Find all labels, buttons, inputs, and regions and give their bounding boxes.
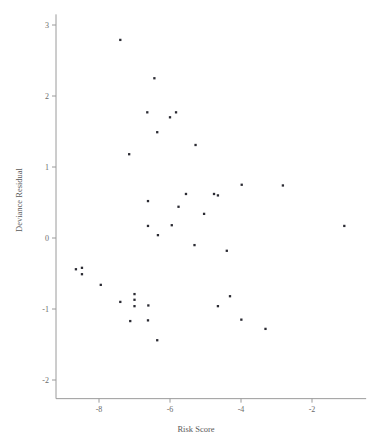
data-point <box>147 319 149 321</box>
data-point <box>217 194 219 196</box>
data-point <box>153 77 155 79</box>
data-points-layer <box>75 39 346 342</box>
data-point <box>133 293 135 295</box>
data-point <box>169 116 171 118</box>
scatter-plot-figure: -2-10123 -8-6-4-2 Deviance Residual Risk… <box>0 0 370 447</box>
data-point <box>147 225 149 227</box>
plot-canvas: -2-10123 -8-6-4-2 Deviance Residual Risk… <box>0 0 370 447</box>
y-tick-label: -1 <box>42 305 49 314</box>
data-point <box>119 39 121 41</box>
data-point <box>129 320 131 322</box>
data-point <box>229 295 231 297</box>
y-axis-title: Deviance Residual <box>14 167 24 232</box>
data-point <box>100 284 102 286</box>
data-point <box>240 319 242 321</box>
data-point <box>177 206 179 208</box>
y-tick-label: 2 <box>45 92 49 101</box>
x-tick-label: -8 <box>96 405 103 414</box>
x-axis: -8-6-4-2 <box>56 399 366 414</box>
y-tick-label: 3 <box>45 21 49 30</box>
y-axis: -2-10123 <box>42 14 56 398</box>
x-tick-label: -6 <box>167 405 174 414</box>
data-point <box>156 131 158 133</box>
data-point <box>133 299 135 301</box>
data-point <box>264 328 266 330</box>
data-point <box>75 268 77 270</box>
data-point <box>133 305 135 307</box>
data-point <box>217 305 219 307</box>
y-tick-label: 0 <box>45 234 49 243</box>
data-point <box>241 184 243 186</box>
data-point <box>194 144 196 146</box>
y-tick-label: -2 <box>42 376 49 385</box>
y-tick-label: 1 <box>45 163 49 172</box>
data-point <box>282 184 284 186</box>
data-point <box>157 234 159 236</box>
data-point <box>128 153 130 155</box>
data-point <box>171 224 173 226</box>
data-point <box>343 225 345 227</box>
data-point <box>147 200 149 202</box>
data-point <box>226 250 228 252</box>
data-point <box>146 111 148 113</box>
data-point <box>203 213 205 215</box>
data-point <box>81 273 83 275</box>
x-axis-title: Risk Score <box>177 424 214 434</box>
data-point <box>156 339 158 341</box>
data-point <box>213 193 215 195</box>
data-point <box>185 193 187 195</box>
data-point <box>175 111 177 113</box>
data-point <box>147 304 149 306</box>
x-tick-label: -2 <box>309 405 316 414</box>
data-point <box>193 244 195 246</box>
x-tick-label: -4 <box>238 405 245 414</box>
data-point <box>81 267 83 269</box>
data-point <box>119 301 121 303</box>
